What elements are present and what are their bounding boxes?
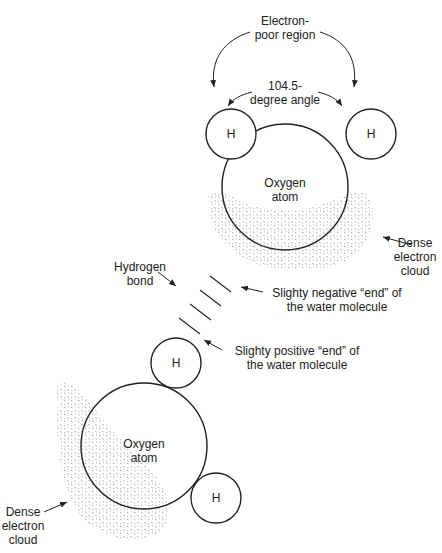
electron-poor-label: Electron- poor region [245, 14, 325, 42]
negative-end-line-1: Slighty negative “end” of [262, 286, 412, 300]
electron-poor-line-2: poor region [245, 28, 325, 42]
negative-end-line-2: the water molecule [262, 300, 412, 314]
positive-end-arrow [204, 340, 222, 350]
electron-poor-arrow-right [320, 32, 355, 87]
positive-end-line-2: the water molecule [222, 358, 372, 372]
angle-line-2: degree angle [245, 93, 325, 107]
top-cloud-line-1: Dense [385, 236, 442, 250]
top-hydrogen-right-label: H [361, 127, 381, 141]
hydrogen-bond-line-1: Hydrogen [110, 260, 170, 274]
bottom-oxygen-line-2: atom [114, 451, 174, 465]
bottom-cloud-line-3: cloud [0, 533, 46, 547]
top-cloud-label: Dense electron cloud [385, 236, 442, 278]
bottom-hydrogen-bottom-label: H [206, 491, 226, 505]
top-water-molecule [206, 32, 412, 270]
bottom-oxygen-line-1: Oxygen [114, 437, 174, 451]
hydrogen-bond-label: Hydrogen bond [110, 260, 170, 288]
water-diagram-canvas [0, 0, 442, 553]
bottom-cloud-arrow [44, 502, 67, 512]
top-oxygen-line-2: atom [255, 190, 315, 204]
hydrogen-bond-line-2: bond [110, 274, 170, 288]
bottom-cloud-label: Dense electron cloud [0, 505, 46, 547]
top-cloud-line-2: electron [385, 250, 442, 264]
positive-end-line-1: Slighty positive “end” of [222, 344, 372, 358]
angle-line-1: 104.5- [245, 79, 325, 93]
top-oxygen-line-1: Oxygen [255, 176, 315, 190]
positive-end-label: Slighty positive “end” of the water mole… [222, 344, 372, 372]
bottom-cloud-line-1: Dense [0, 505, 46, 519]
bottom-hydrogen-top-label: H [166, 356, 186, 370]
negative-end-label: Slighty negative “end” of the water mole… [262, 286, 412, 314]
top-cloud-line-3: cloud [385, 264, 442, 278]
bottom-oxygen-label: Oxygen atom [114, 437, 174, 465]
electron-poor-line-1: Electron- [245, 14, 325, 28]
top-hydrogen-left-label: H [221, 127, 241, 141]
top-oxygen-label: Oxygen atom [255, 176, 315, 204]
negative-end-arrow [241, 287, 263, 292]
bottom-cloud-line-2: electron [0, 519, 46, 533]
angle-label: 104.5- degree angle [245, 79, 325, 107]
